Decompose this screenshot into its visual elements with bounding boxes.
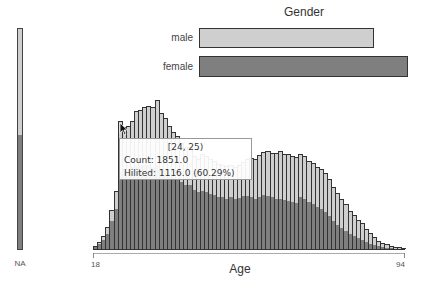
axis-max-label: 94 [396, 260, 405, 269]
histogram-tooltip: [24, 25) Count: 1851.0 Hilited: 1116.0 (… [119, 138, 252, 180]
na-hilited-portion [18, 135, 22, 249]
female-label: female [123, 61, 193, 72]
male-bar[interactable] [199, 28, 374, 48]
age-axis [93, 253, 405, 254]
mouse-pointer-icon [119, 122, 129, 136]
x-axis-label: Age [200, 262, 280, 276]
axis-min-label: 18 [91, 260, 100, 269]
axis-tick-min [93, 253, 94, 258]
na-bar[interactable] [17, 28, 23, 250]
histogram-baseline [93, 249, 405, 250]
gender-chart-title: Gender [200, 5, 408, 19]
na-label: NA [10, 259, 30, 268]
tooltip-range: [24, 25) [124, 141, 247, 154]
male-label: male [123, 32, 193, 43]
tooltip-hilited: Hilited: 1116.0 (60.29%) [124, 167, 247, 180]
tooltip-count: Count: 1851.0 [124, 154, 247, 167]
axis-tick-max [404, 253, 405, 258]
female-bar[interactable] [199, 56, 408, 77]
